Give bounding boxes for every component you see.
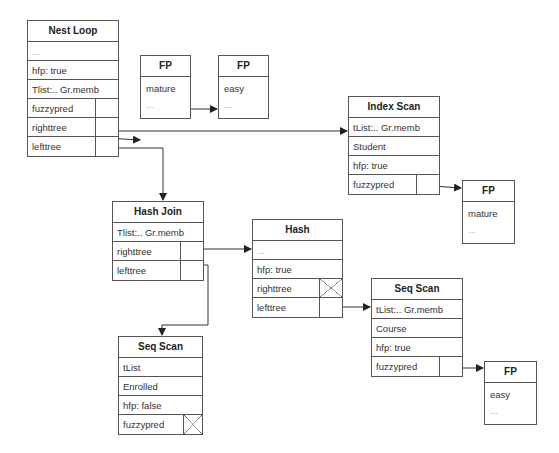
fp-more: ... <box>224 97 263 113</box>
pointer-cell <box>95 118 118 136</box>
node-row: Enrolled <box>119 377 202 396</box>
pointer-cell <box>439 357 462 376</box>
row-label: fuzzypred <box>353 179 394 190</box>
node-fp-easy: FP easy... <box>218 55 269 119</box>
node-title: Hash Join <box>113 202 203 223</box>
row-label: fuzzypred <box>32 103 73 114</box>
node-row-righttree: righttree <box>28 118 118 137</box>
node-row: ... <box>253 241 342 260</box>
node-title: FP <box>219 56 268 77</box>
fp-value: mature <box>468 206 509 222</box>
node-row: Student <box>349 137 439 156</box>
node-nest-loop: Nest Loop ... hfp: true Tlist:.. Gr.memb… <box>27 20 119 157</box>
pointer-cell <box>95 99 118 117</box>
node-row-lefttree: lefttree <box>253 298 342 317</box>
row-label: lefttree <box>117 265 146 276</box>
node-row: tList:.. Gr.memb <box>372 300 462 319</box>
node-row: hfp: true <box>349 156 439 175</box>
node-seq-scan-enrolled: Seq Scan tList Enrolled hfp: false fuzzy… <box>118 336 203 435</box>
node-hash: Hash ... hfp: true righttree lefttree <box>252 219 343 318</box>
node-row-fuzzypred: fuzzypred <box>372 357 462 376</box>
node-fp-easy: FP easy... <box>484 361 537 425</box>
pointer-cell <box>95 137 118 156</box>
node-title: FP <box>485 362 536 383</box>
node-row: Course <box>372 319 462 338</box>
node-row: hfp: false <box>119 396 202 415</box>
node-row-fuzzypred: fuzzypred <box>28 99 118 118</box>
fp-more: ... <box>468 222 509 238</box>
row-label: righttree <box>32 122 67 133</box>
node-title: FP <box>141 56 190 77</box>
node-row-righttree: righttree <box>253 279 342 298</box>
node-row: Tlist:.. Gr.memb <box>113 223 203 242</box>
node-index-scan: Index Scan tList:.. Gr.memb Student hfp:… <box>348 96 440 195</box>
pointer-cell <box>180 242 203 260</box>
node-fp-mature: FP mature... <box>140 55 191 119</box>
node-title: FP <box>463 181 514 202</box>
node-row: tList <box>119 358 202 377</box>
fp-more: ... <box>146 97 185 113</box>
fp-value: easy <box>490 387 531 403</box>
pointer-cell <box>416 175 439 194</box>
null-pointer-icon <box>183 415 202 434</box>
node-row: Tlist:.. Gr.memb <box>28 80 118 99</box>
null-pointer-icon <box>319 279 342 297</box>
node-row: hfp: true <box>253 260 342 279</box>
node-title: Index Scan <box>349 97 439 118</box>
node-hash-join: Hash Join Tlist:.. Gr.memb righttree lef… <box>112 201 204 281</box>
pointer-cell <box>319 298 342 317</box>
node-row-lefttree: lefttree <box>113 261 203 280</box>
node-title: Hash <box>253 220 342 241</box>
node-row: hfp: true <box>28 61 118 80</box>
row-label: fuzzypred <box>376 361 417 372</box>
node-title: Seq Scan <box>119 337 202 358</box>
row-label: righttree <box>257 283 292 294</box>
node-seq-scan-course: Seq Scan tList:.. Gr.memb Course hfp: tr… <box>371 278 463 377</box>
node-row: hfp: true <box>372 338 462 357</box>
node-fp-mature: FP mature... <box>462 180 515 244</box>
query-plan-diagram: Nest Loop ... hfp: true Tlist:.. Gr.memb… <box>0 0 559 453</box>
row-label: lefttree <box>257 302 286 313</box>
fp-more: ... <box>490 403 531 419</box>
node-row: ... <box>28 42 118 61</box>
row-label: lefttree <box>32 141 61 152</box>
node-row-righttree: righttree <box>113 242 203 261</box>
row-label: fuzzypred <box>123 419 164 430</box>
node-title: Seq Scan <box>372 279 462 300</box>
fp-value: mature <box>146 81 185 97</box>
pointer-cell <box>180 261 203 280</box>
fp-value: easy <box>224 81 263 97</box>
node-title: Nest Loop <box>28 21 118 42</box>
node-row-lefttree: lefttree <box>28 137 118 156</box>
row-label: righttree <box>117 246 152 257</box>
node-row-fuzzypred: fuzzypred <box>349 175 439 194</box>
node-row: tList:.. Gr.memb <box>349 118 439 137</box>
node-row-fuzzypred: fuzzypred <box>119 415 202 434</box>
